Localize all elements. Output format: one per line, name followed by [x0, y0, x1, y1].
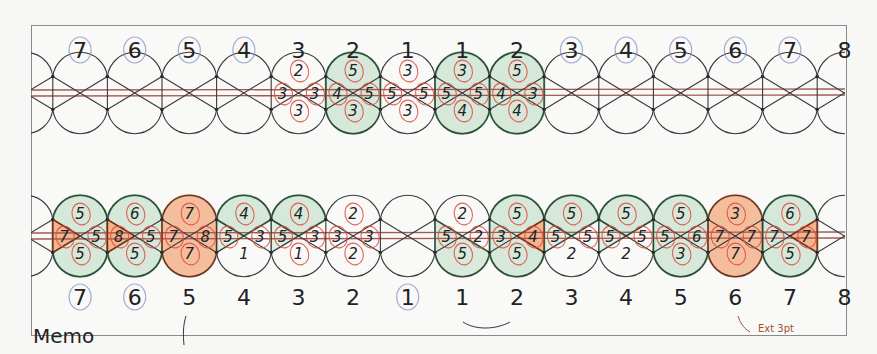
cell-number: 5: [75, 245, 85, 263]
column-label: 2: [510, 38, 524, 63]
cell-number: 4: [496, 85, 506, 103]
cell-number: 2: [294, 62, 304, 80]
column-label: 6: [128, 38, 142, 63]
cell-number: 5: [583, 228, 593, 246]
cell-number: 2: [567, 245, 577, 263]
column-label: 1: [401, 285, 415, 310]
cell-number: 7: [59, 228, 69, 246]
cell-number: 5: [605, 228, 615, 246]
column-label: 4: [237, 38, 251, 63]
cell-number: 4: [512, 102, 522, 120]
cell-number: 2: [348, 205, 358, 223]
cell-number: 7: [715, 228, 725, 246]
cell-number: 6: [785, 205, 795, 223]
cell-number: 5: [512, 245, 522, 263]
margin-note: Ext 3pt: [758, 323, 794, 334]
cell-number: 3: [731, 205, 741, 223]
cell-number: 5: [551, 228, 561, 246]
cell-number: 3: [403, 102, 413, 120]
cell-number: 5: [387, 85, 397, 103]
cell-number: 5: [91, 228, 101, 246]
cell-number: 3: [528, 85, 538, 103]
cell-number: 3: [496, 228, 506, 246]
column-label: 2: [346, 38, 360, 63]
cell-number: 7: [185, 205, 195, 223]
cell-number: 7: [801, 228, 811, 246]
cell-number: 2: [458, 205, 468, 223]
column-label: 6: [128, 285, 142, 310]
column-label: 3: [565, 285, 579, 310]
cell-number: 5: [223, 228, 233, 246]
cell-number: 5: [567, 205, 577, 223]
column-label: 2: [510, 285, 524, 310]
cell-number: 5: [442, 85, 452, 103]
column-label: 3: [565, 38, 579, 63]
cell-number: 3: [403, 62, 413, 80]
column-label: 6: [728, 285, 742, 310]
cell-number: 5: [637, 228, 647, 246]
cell-number: 8: [201, 228, 211, 246]
column-label: 8: [838, 285, 852, 310]
column-label: 7: [73, 285, 87, 310]
cell-number: 5: [442, 228, 452, 246]
column-label: 4: [237, 285, 251, 310]
cell-number: 5: [512, 205, 522, 223]
cell-number: 2: [474, 228, 484, 246]
column-label: 8: [838, 38, 852, 63]
pen-stroke: [738, 316, 750, 332]
cell-number: 4: [294, 205, 304, 223]
cell-number: 3: [278, 85, 288, 103]
cell-number: 5: [676, 205, 686, 223]
cell-number: 7: [169, 228, 179, 246]
cell-number: 5: [474, 85, 484, 103]
cell-number: 3: [310, 85, 320, 103]
column-label: 5: [674, 285, 688, 310]
column-label: 3: [292, 285, 306, 310]
cell-number: 3: [255, 228, 265, 246]
column-label: 7: [783, 38, 797, 63]
cell-number: 1: [294, 245, 304, 263]
cell-number: 5: [512, 62, 522, 80]
braiding-chart-scan: 2333545335533554543457556855778745314531…: [0, 0, 877, 354]
cell-number: 5: [660, 228, 670, 246]
top-row-labels: 765432112345678: [69, 37, 851, 63]
column-label: 4: [619, 38, 633, 63]
column-label: 4: [619, 285, 633, 310]
column-label: 2: [346, 285, 360, 310]
cell-number: 5: [458, 245, 468, 263]
cell-number: 7: [769, 228, 779, 246]
pen-stroke: [183, 316, 186, 345]
column-label: 1: [455, 285, 469, 310]
cell-number: 2: [348, 245, 358, 263]
bottom-row: 5755685577874531453123322525534555525552…: [0, 195, 874, 276]
cell-number: 7: [747, 228, 757, 246]
column-label: 6: [728, 38, 742, 63]
braiding-diagram: 2333545335533554543457556855778745314531…: [0, 0, 877, 354]
cell-number: 4: [458, 102, 468, 120]
cell-number: 5: [146, 228, 156, 246]
cell-number: 7: [185, 245, 195, 263]
column-label: 1: [401, 38, 415, 63]
column-label: 5: [674, 38, 688, 63]
cell-number: 5: [364, 85, 374, 103]
bottom-row-labels: 765432112345678: [69, 284, 851, 310]
column-label: 7: [783, 285, 797, 310]
column-label: 5: [182, 38, 196, 63]
column-label: 3: [292, 38, 306, 63]
cell-number: 2: [621, 245, 631, 263]
cell-number: 5: [785, 245, 795, 263]
column-label: 5: [182, 285, 196, 310]
cell-number: 5: [419, 85, 429, 103]
column-label: 1: [455, 38, 469, 63]
cell-number: 6: [692, 228, 702, 246]
cell-number: 4: [332, 85, 342, 103]
memo-label: Memo: [33, 324, 94, 348]
cell-number: 6: [130, 205, 140, 223]
cell-number: 5: [348, 62, 358, 80]
cell-number: 3: [458, 62, 468, 80]
cell-number: 7: [731, 245, 741, 263]
cell-number: 3: [364, 228, 374, 246]
top-row: 23335453355335545434: [0, 52, 874, 133]
cell-number: 3: [310, 228, 320, 246]
cell-number: 1: [239, 245, 249, 263]
